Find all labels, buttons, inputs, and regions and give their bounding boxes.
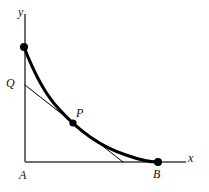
x-axis-label: x <box>188 152 193 164</box>
curve-top-endpoint-marker <box>20 43 28 51</box>
point-p-label: P <box>76 107 83 119</box>
y-axis-label: y <box>18 6 23 18</box>
point-b-label: B <box>153 168 160 180</box>
diagram-canvas <box>0 0 209 192</box>
point-q-label: Q <box>6 77 15 89</box>
point-a-label: A <box>19 169 26 181</box>
curve-diagram-figure: y x Q A P B <box>0 0 209 192</box>
point-b-marker <box>154 158 162 166</box>
point-p-marker <box>69 119 76 126</box>
convex-curve <box>24 47 158 162</box>
